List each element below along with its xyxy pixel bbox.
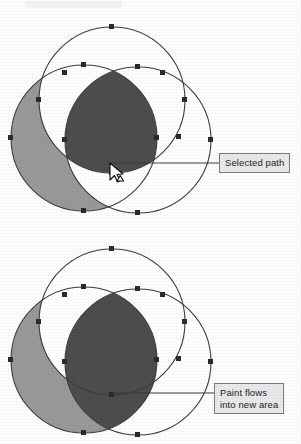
callout-paint-flows-line1: Paint flows [220,387,267,398]
illustration-page: Selected path [0,0,301,444]
figure-selected-path [0,0,301,222]
callout-paint-flows-line2: into new area [220,399,278,410]
callout-paint-flows: Paint flowsinto new area [214,383,284,414]
callout-selected-path: Selected path [219,153,290,173]
